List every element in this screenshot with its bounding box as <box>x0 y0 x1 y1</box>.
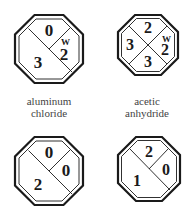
sign-label-aluminum-chloride: aluminum chloride <box>4 95 94 119</box>
reactivity-rating: 2 <box>143 144 155 160</box>
special-rating: 0 <box>60 162 72 179</box>
special-rating: 2 <box>58 46 70 63</box>
label-line: acetic <box>102 95 192 107</box>
health-rating: 2 <box>32 176 44 193</box>
reactivity-rating: 3 <box>142 54 154 70</box>
hazard-sign-aluminum-chloride: 0 W 2 3 <box>14 14 84 84</box>
label-line: chloride <box>4 107 94 119</box>
special-rating: 2 <box>159 42 171 58</box>
health-rating: 3 <box>124 37 136 53</box>
special-rating: 0 <box>160 162 172 178</box>
reactivity-rating: 0 <box>43 22 55 39</box>
sign-label-acetic-anhydride: acetic anhydride <box>102 95 192 119</box>
flammability-rating: 2 <box>142 20 154 36</box>
label-line: anhydride <box>102 107 192 119</box>
hazard-sign-acetic-anhydride: 2 3 W 2 3 <box>117 14 179 76</box>
label-line: aluminum <box>4 95 94 107</box>
health-rating: 1 <box>131 173 143 189</box>
hazard-sign-4: 2 0 1 <box>117 136 181 202</box>
reactivity-rating: 0 <box>43 144 55 161</box>
health-rating: 3 <box>32 54 44 71</box>
hazard-sign-3: 0 0 2 <box>14 136 84 206</box>
